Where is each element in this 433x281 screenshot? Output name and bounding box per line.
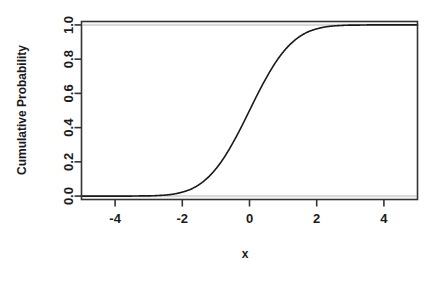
plot-background	[0, 0, 433, 281]
y-axis-tick-label: 0.6	[61, 84, 76, 102]
x-axis-tick-label: 4	[380, 211, 388, 226]
x-axis-tick-label: -2	[177, 211, 189, 226]
y-axis-tick-label: 0.8	[61, 50, 76, 68]
y-axis-tick-label: 0.0	[61, 187, 76, 205]
y-axis-tick-label: 0.2	[61, 153, 76, 171]
y-axis-tick-label: 1.0	[61, 16, 76, 34]
x-axis-tick-label: 0	[246, 211, 253, 226]
chart-canvas: -4-2024 0.00.20.40.60.81.0 x Cumulative …	[0, 0, 433, 281]
y-axis-tick-label: 0.4	[61, 118, 76, 137]
y-axis-title: Cumulative Probability	[15, 45, 29, 175]
x-axis-tick-label: 2	[313, 211, 320, 226]
x-axis-tick-label: -4	[109, 211, 121, 226]
cdf-plot-figure: Standard Normal CDF -4-2024 0.00.20.40.6…	[0, 0, 433, 281]
x-axis-title: x	[242, 247, 249, 261]
